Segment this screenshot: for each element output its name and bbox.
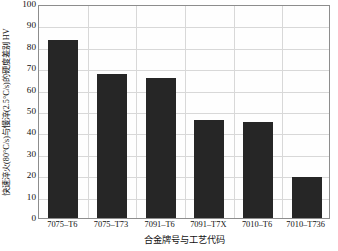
y-axis-tick-label: 10 — [27, 193, 36, 202]
x-axis-tick-labels: 7075–T67075–T737091–T67091–T7X7010–T6701… — [38, 221, 330, 235]
vertical-gridline — [88, 6, 89, 218]
plot-area — [38, 5, 330, 219]
x-axis-tick-label: 7091–T6 — [145, 221, 175, 229]
bar — [97, 74, 127, 218]
y-axis-tick-label: 80 — [27, 43, 36, 52]
x-axis-tick-label: 7075–T6 — [47, 221, 77, 229]
horizontal-gridline — [39, 177, 329, 178]
bar — [194, 120, 224, 218]
y-axis-tick-labels: 0102030405060708090100 — [14, 0, 38, 251]
x-axis-tick-label: 7075–T73 — [94, 221, 128, 229]
x-axis-title: 合金牌号与工艺代码 — [38, 236, 330, 245]
y-axis-tick-label: 0 — [31, 214, 36, 223]
vertical-gridline — [234, 6, 235, 218]
horizontal-gridline — [39, 156, 329, 157]
x-axis-tick-label: 7010–T6 — [242, 221, 272, 229]
y-axis-tick-label: 70 — [27, 65, 36, 74]
y-axis-tick-label: 30 — [27, 150, 36, 159]
y-axis-tick-label: 50 — [27, 107, 36, 116]
bar-chart-figure: 快速淬火(80°C/s)与慢淬(2.5°C/s)的硬度差别 HV 0102030… — [0, 0, 338, 251]
x-axis-tick-label: 7010–T736 — [286, 221, 325, 229]
y-axis-tick-label: 40 — [27, 129, 36, 138]
y-axis-tick-label: 90 — [27, 22, 36, 31]
bar — [243, 122, 273, 218]
horizontal-gridline — [39, 113, 329, 114]
horizontal-gridline — [39, 70, 329, 71]
horizontal-gridline — [39, 199, 329, 200]
x-axis-tick-label: 7091–T7X — [190, 221, 226, 229]
horizontal-gridline — [39, 49, 329, 50]
y-axis-tick-label: 60 — [27, 86, 36, 95]
y-axis-tick-label: 100 — [22, 0, 36, 9]
horizontal-gridline — [39, 27, 329, 28]
vertical-gridline — [136, 6, 137, 218]
vertical-gridline — [185, 6, 186, 218]
y-axis-title: 快速淬火(80°C/s)与慢淬(2.5°C/s)的硬度差别 HV — [0, 0, 14, 225]
bar — [292, 177, 322, 218]
vertical-gridline — [282, 6, 283, 218]
y-axis-tick-label: 20 — [27, 172, 36, 181]
horizontal-gridline — [39, 92, 329, 93]
horizontal-gridline — [39, 134, 329, 135]
bar — [48, 40, 78, 218]
bar — [146, 78, 176, 218]
y-axis-title-text: 快速淬火(80°C/s)与慢淬(2.5°C/s)的硬度差别 HV — [3, 29, 11, 197]
